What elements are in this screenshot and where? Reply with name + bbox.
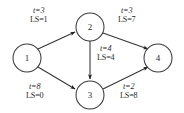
edge-1-to-2 — [38, 32, 75, 49]
edge-late-start-1-to-2: LS=1 — [30, 16, 47, 25]
edge-label-2-to-3: t=4 LS=4 — [97, 45, 114, 63]
edge-label-1-to-2: t=3 LS=1 — [30, 7, 47, 25]
edge-late-start-2-to-3: LS=4 — [97, 54, 114, 63]
edge-late-start-1-to-3: LS=0 — [26, 92, 43, 101]
node-1-label: 1 — [25, 53, 30, 63]
node-4-label: 4 — [156, 53, 161, 63]
edge-label-1-to-3: t=8 LS=0 — [26, 83, 43, 101]
diagram-canvas: 1 2 3 4 t=3 LS=1 t=3 LS=7 t=4 LS=4 t=8 L… — [0, 0, 184, 113]
edge-1-to-3 — [38, 67, 75, 89]
edge-label-3-to-4: t=2 LS=8 — [120, 83, 137, 101]
edge-late-start-2-to-4: LS=7 — [118, 16, 135, 25]
edge-late-start-3-to-4: LS=8 — [120, 92, 137, 101]
node-2-label: 2 — [88, 22, 93, 32]
edge-label-2-to-4: t=3 LS=7 — [118, 7, 135, 25]
node-3-label: 3 — [88, 90, 93, 100]
